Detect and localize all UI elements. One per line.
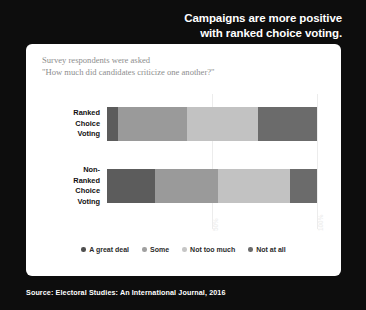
legend-label: Some: [150, 246, 169, 253]
bar-segment: [107, 169, 155, 203]
bar-segment: [118, 107, 187, 141]
chart-plot-area: 50%100% Ranked Choice Voting Non-Ranked …: [107, 94, 317, 229]
x-tick-label: 50%: [212, 218, 219, 231]
chart-legend: A great dealSomeNot too muchNot at all: [26, 246, 341, 253]
legend-item[interactable]: Not at all: [248, 246, 286, 253]
headline-line-2: with ranked choice voting.: [82, 26, 342, 41]
bar-segment: [107, 107, 118, 141]
bar-label-non-ranked-choice-voting: Non-Ranked Choice Voting: [73, 165, 100, 207]
bar-label-ranked-choice-voting: Ranked Choice Voting: [73, 108, 100, 140]
x-tick-label: 100%: [317, 215, 324, 231]
legend-label: Not at all: [256, 246, 286, 253]
legend-item[interactable]: Not too much: [182, 246, 235, 253]
infographic-poster: Campaigns are more positive with ranked …: [0, 0, 366, 310]
bar-segment: [218, 169, 289, 203]
bar-segment: [187, 107, 258, 141]
gridline: [317, 94, 318, 229]
bar-segment: [290, 169, 317, 203]
bar-segment: [155, 169, 218, 203]
legend-dot-icon: [248, 247, 253, 252]
chart-subtitle: Survey respondents were asked "How much …: [42, 54, 215, 79]
source-note: Source: Electoral Studies: An Internatio…: [26, 288, 226, 297]
chart-card: Survey respondents were asked "How much …: [26, 44, 341, 276]
legend-label: A great deal: [89, 246, 129, 253]
page-title: Campaigns are more positive with ranked …: [82, 11, 342, 42]
legend-dot-icon: [182, 247, 187, 252]
headline-line-1: Campaigns are more positive: [184, 12, 342, 24]
bar-row-ranked-choice-voting: Ranked Choice Voting: [107, 107, 317, 141]
legend-item[interactable]: A great deal: [81, 246, 129, 253]
legend-item[interactable]: Some: [142, 246, 169, 253]
legend-dot-icon: [142, 247, 147, 252]
legend-dot-icon: [81, 247, 86, 252]
bar-row-non-ranked-choice-voting: Non-Ranked Choice Voting: [107, 169, 317, 203]
legend-label: Not too much: [190, 246, 235, 253]
bar-segment: [258, 107, 317, 141]
